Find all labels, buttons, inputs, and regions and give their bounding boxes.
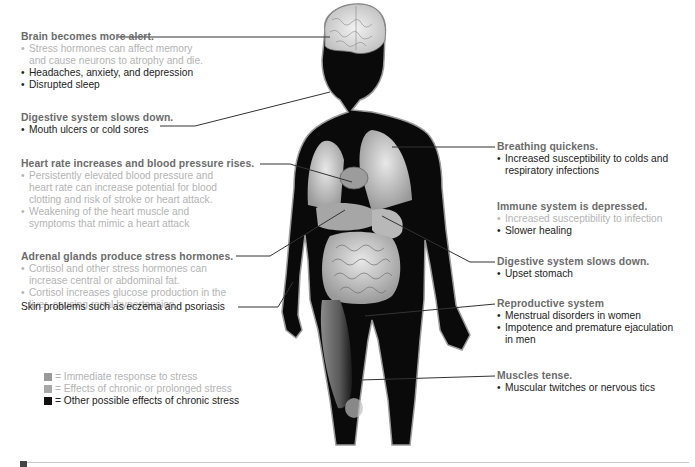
legend-label: Immediate response to stress [64, 371, 198, 383]
legend-equals: = [55, 371, 61, 383]
digestive-bottom-heading: Digestive system slows down. [497, 256, 649, 268]
legend-swatch-immediate-icon [44, 373, 52, 381]
digestive-top-callout: Digestive system slows down. Mouth ulcer… [21, 112, 173, 136]
legend-swatch-other-icon [44, 397, 52, 405]
muscles-item: Muscular twitches or nervous tics [497, 382, 655, 394]
adrenal-item: Cortisol and other stress hormones can [21, 263, 233, 275]
brain-item: Disrupted sleep [21, 79, 203, 91]
breathing-item: respiratory infections [497, 165, 668, 177]
heart-heading: Heart rate increases and blood pressure … [21, 158, 254, 170]
reproductive-item: Impotence and premature ejaculation [497, 322, 673, 334]
heart-item: clotting and risk of stroke or heart att… [21, 194, 254, 206]
reproductive-item: in men [497, 334, 673, 346]
footer-marker [20, 461, 27, 467]
footer-divider [27, 462, 689, 463]
heart [340, 167, 368, 189]
immune-item: Increased susceptibility to infection [497, 213, 662, 225]
brain-item: Stress hormones can affect memory [21, 43, 203, 55]
adrenal-item: Cortisol increases glucose production in… [21, 287, 233, 299]
immune-heading: Immune system is depressed. [497, 201, 662, 213]
adrenal-heading: Adrenal glands produce stress hormones. [21, 251, 233, 263]
reproductive-heading: Reproductive system [497, 298, 673, 310]
breathing-callout: Breathing quickens. Increased susceptibi… [497, 141, 668, 177]
brain-callout: Brain becomes more alert. Stress hormone… [21, 31, 203, 91]
liver [316, 203, 374, 231]
muscles-heading: Muscles tense. [497, 370, 655, 382]
heart-item: symptoms that mimic a heart attack [21, 218, 254, 230]
legend-swatch-chronic-icon [44, 385, 52, 393]
digestive-top-item: Mouth ulcers or cold sores [21, 124, 173, 136]
heart-callout: Heart rate increases and blood pressure … [21, 158, 254, 230]
digestive-top-heading: Digestive system slows down. [21, 112, 173, 124]
legend-equals: = [55, 395, 61, 407]
heart-item: Weakening of the heart muscle and [21, 206, 254, 218]
knee [345, 398, 363, 418]
legend-label: Other possible effects of chronic stress [64, 395, 239, 407]
breathing-heading: Breathing quickens. [497, 141, 668, 153]
breathing-item: Increased susceptibility to colds and [497, 153, 668, 165]
brain [325, 4, 386, 54]
legend-label: Effects of chronic or prolonged stress [64, 383, 232, 395]
legend-row-immediate: = Immediate response to stress [44, 371, 239, 383]
skin-callout: Skin problems such as eczema and psorias… [21, 301, 225, 313]
reproductive-callout: Reproductive system Menstrual disorders … [497, 298, 673, 346]
legend-row-other: = Other possible effects of chronic stre… [44, 395, 239, 407]
immune-item: Slower healing [497, 225, 662, 237]
immune-callout: Immune system is depressed. Increased su… [497, 201, 662, 237]
brain-heading: Brain becomes more alert. [21, 31, 203, 43]
legend-row-chronic: = Effects of chronic or prolonged stress [44, 383, 239, 395]
adrenal-item: increase central or abdominal fat. [21, 275, 233, 287]
reproductive-item: Menstrual disorders in women [497, 310, 673, 322]
legend: = Immediate response to stress = Effects… [44, 371, 239, 407]
heart-item: Persistently elevated blood pressure and [21, 170, 254, 182]
muscles-callout: Muscles tense. Muscular twitches or nerv… [497, 370, 655, 394]
digestive-bottom-item: Upset stomach [497, 268, 649, 280]
legend-equals: = [55, 383, 61, 395]
heart-item: heart rate can increase potential for bl… [21, 182, 254, 194]
brain-item: Headaches, anxiety, and depression [21, 67, 203, 79]
digestive-bottom-callout: Digestive system slows down. Upset stoma… [497, 256, 649, 280]
brain-item: and cause neurons to atrophy and die. [21, 55, 203, 67]
intestines [322, 232, 400, 304]
